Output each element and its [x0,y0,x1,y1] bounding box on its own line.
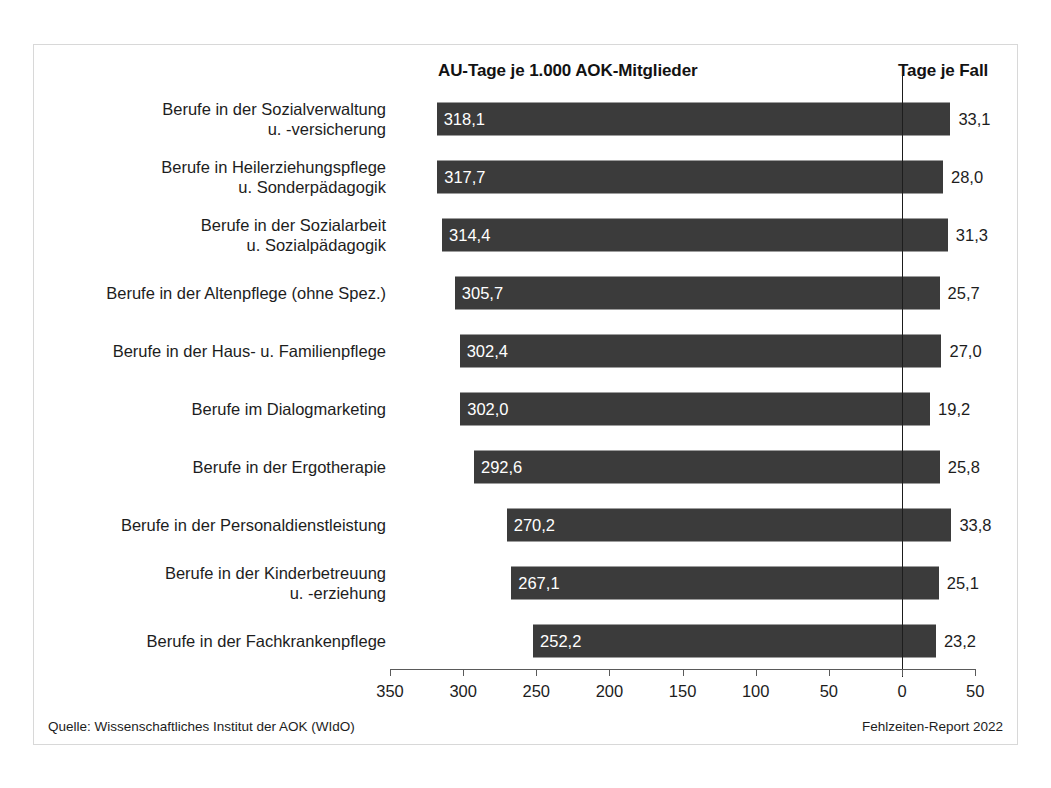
bar-value-label: 302,0 [467,400,508,419]
bar-value-label: 267,1 [518,574,559,593]
bar-value-label: 270,2 [514,516,555,535]
axis-tick [463,669,464,676]
axis-tick [756,669,757,676]
category-label: Berufe im Dialogmarketing [56,399,386,419]
bar-value-label: 317,7 [444,168,485,187]
category-label: Berufe in Heilerziehungspflege u. Sonder… [56,157,386,197]
axis-tick-label: 300 [449,682,477,701]
tage-je-fall-value: 25,7 [948,284,980,303]
chart-row: Berufe in der Sozialverwaltung u. -versi… [34,90,1019,148]
tage-je-fall-value: 25,8 [948,458,980,477]
axis-tick [829,669,830,676]
chart-bar: 302,0 [460,393,930,426]
axis-tick-label: 250 [523,682,551,701]
chart-row: Berufe in der Kinderbetreuung u. -erzieh… [34,554,1019,612]
footer-source: Quelle: Wissenschaftliches Institut der … [48,719,355,734]
tage-je-fall-value: 27,0 [949,342,981,361]
category-label: Berufe in der Sozialverwaltung u. -versi… [56,99,386,139]
category-label: Berufe in der Haus- u. Familienpflege [56,341,386,361]
tage-je-fall-value: 31,3 [956,226,988,245]
chart-row: Berufe in der Altenpflege (ohne Spez.)30… [34,264,1019,322]
bar-value-label: 318,1 [444,110,485,129]
axis-tick [390,669,391,676]
chart-row: Berufe in der Ergotherapie292,625,8 [34,438,1019,496]
bar-value-label: 305,7 [462,284,503,303]
tage-je-fall-value: 23,2 [944,632,976,651]
chart-bar: 317,7 [437,161,943,194]
bar-value-label: 302,4 [467,342,508,361]
axis-tick-label: 200 [596,682,624,701]
chart-bar: 252,2 [533,625,936,658]
category-label: Berufe in der Altenpflege (ohne Spez.) [56,283,386,303]
chart-bar: 314,4 [442,219,948,252]
axis-tick-label: 0 [897,682,906,701]
axis-tick [536,669,537,676]
axis-tick [902,669,903,676]
chart-bar: 318,1 [437,103,951,136]
chart-row: Berufe in der Haus- u. Familienpflege302… [34,322,1019,380]
chart-bar: 302,4 [460,335,942,368]
category-label: Berufe in der Kinderbetreuung u. -erzieh… [56,563,386,603]
chart-row: Berufe in der Sozialarbeit u. Sozialpäda… [34,206,1019,264]
chart-row: Berufe in der Fachkrankenpflege252,223,2 [34,612,1019,670]
axis-tick-label: 100 [742,682,770,701]
chart-bar: 267,1 [511,567,938,600]
tage-je-fall-value: 19,2 [938,400,970,419]
category-label: Berufe in der Ergotherapie [56,457,386,477]
chart-figure: AU-Tage je 1.000 AOK-Mitglieder Tage je … [33,44,1018,745]
category-label: Berufe in der Fachkrankenpflege [56,631,386,651]
tage-je-fall-value: 33,8 [959,516,991,535]
chart-bar: 305,7 [455,277,940,310]
bar-value-label: 252,2 [540,632,581,651]
chart-row: Berufe in der Personaldienstleistung270,… [34,496,1019,554]
chart-bar: 292,6 [474,451,940,484]
chart-bar: 270,2 [507,509,952,542]
axis-tick-label: 50 [966,682,984,701]
axis-tick [609,669,610,676]
bar-value-label: 292,6 [481,458,522,477]
footer-report: Fehlzeiten-Report 2022 [862,719,1003,734]
axis-tick-label: 150 [669,682,697,701]
tage-je-fall-value: 25,1 [947,574,979,593]
tage-je-fall-value: 33,1 [958,110,990,129]
zero-reference-line [902,75,903,677]
axis-tick-label: 50 [820,682,838,701]
tage-je-fall-value: 28,0 [951,168,983,187]
axis-tick [683,669,684,676]
bar-value-label: 314,4 [449,226,490,245]
category-label: Berufe in der Personaldienstleistung [56,515,386,535]
chart-row: Berufe im Dialogmarketing302,019,2 [34,380,1019,438]
axis-tick-label: 350 [376,682,404,701]
plot-area: Berufe in der Sozialverwaltung u. -versi… [34,45,1019,746]
chart-row: Berufe in Heilerziehungspflege u. Sonder… [34,148,1019,206]
axis-tick [975,669,976,676]
category-label: Berufe in der Sozialarbeit u. Sozialpäda… [56,215,386,255]
